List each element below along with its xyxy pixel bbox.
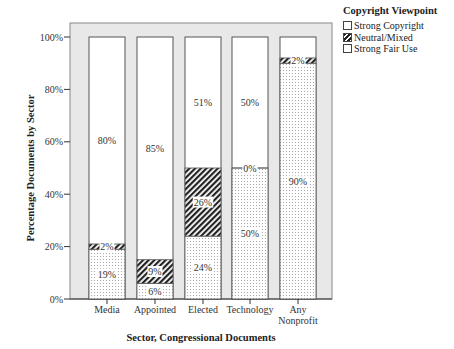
y-tick-label: 80% [45, 84, 63, 95]
bar-value-label: 9% [148, 266, 161, 277]
bar-value-label: 50% [241, 228, 259, 239]
y-axis-title: Percentage Documents by Sector [25, 94, 36, 241]
bar-media: 19%2%80% [89, 37, 125, 299]
legend-title: Copyright Viewpoint [343, 5, 437, 16]
bar-value-label: 26% [194, 197, 212, 208]
y-tick-label: 20% [45, 241, 63, 252]
bar-value-label: 19% [98, 269, 116, 280]
legend: Strong Copyright Neutral/Mixed Strong Fa… [343, 20, 424, 55]
bar-value-label: 85% [146, 143, 164, 154]
y-tick-label: 40% [45, 189, 63, 200]
bar-appointed: 6%9%85% [137, 37, 173, 299]
legend-label: Strong Copyright [354, 20, 424, 32]
y-tick-label: 100% [40, 32, 63, 43]
legend-label: Neutral/Mixed [354, 32, 413, 44]
bar-value-label: 2% [291, 55, 304, 66]
bar-any-nonprofit: 90%2% [280, 37, 316, 299]
bar-value-label: 90% [289, 176, 307, 187]
x-tick-label: Technology [226, 304, 273, 315]
neutral-mixed-swatch-icon [343, 33, 352, 42]
bar-technology: 50%0%50% [232, 37, 268, 299]
x-tick-label: Elected [188, 304, 218, 315]
legend-label: Strong Fair Use [354, 43, 417, 55]
bar-elected: 24%26%51% [185, 37, 221, 299]
legend-item-strong-fair-use: Strong Fair Use [343, 43, 424, 55]
x-tick-label: Any [289, 304, 306, 315]
x-tick-label: Nonprofit [278, 315, 318, 326]
y-tick-label: 0% [50, 294, 63, 305]
x-tick-label: Media [94, 304, 120, 315]
legend-item-neutral-mixed: Neutral/Mixed [343, 32, 424, 44]
bar-value-label: 50% [241, 97, 259, 108]
bars: 19%2%80%6%9%85%24%26%51%50%0%50%90%2% [89, 37, 316, 299]
bar-value-label: 24% [194, 262, 212, 273]
strong-fair-use-swatch-icon [343, 44, 352, 53]
y-tick-label: 60% [45, 136, 63, 147]
legend-item-strong-copyright: Strong Copyright [343, 20, 424, 32]
bar-value-label: 6% [148, 286, 161, 297]
bar-value-label: 2% [100, 241, 113, 252]
x-axis: MediaAppointedElectedTechnologyAnyNonpro… [94, 299, 318, 326]
bar-value-label: 51% [194, 97, 212, 108]
bar-value-label: 80% [98, 135, 116, 146]
bar-value-label: 0% [243, 163, 256, 174]
x-tick-label: Appointed [134, 304, 176, 315]
strong-copyright-swatch-icon [343, 21, 352, 30]
x-axis-title: Sector, Congressional Documents [126, 332, 275, 343]
